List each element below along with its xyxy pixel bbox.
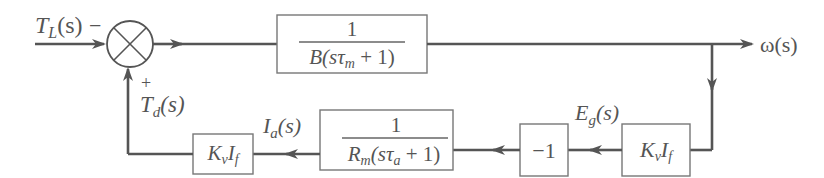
output-label: ω(s) [760,32,798,57]
load-torque-label: TL(s) [35,12,83,41]
negate-label: −1 [532,138,555,163]
armature-current-label: Ia(s) [262,113,301,141]
mechanical-numerator: 1 [347,17,358,41]
plus-sign: + [141,73,151,93]
summing-junction [107,21,153,67]
disturbance-label: Td(s) [140,92,185,120]
minus-sign: − [89,13,101,38]
block-diagram: TL(s) − + Td(s) 1 B(sτm + 1) ω(s) Eg(s) … [0,0,824,178]
back-emf-label: Eg(s) [574,100,619,128]
electrical-numerator: 1 [391,113,402,137]
